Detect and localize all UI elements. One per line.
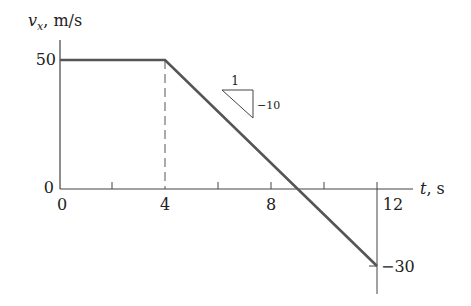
y-tick-label-50: 50 xyxy=(36,50,56,69)
y-tick-label-0: 0 xyxy=(44,178,54,197)
x-tick-label-0: 0 xyxy=(57,195,67,214)
y-tick-label-neg30: −30 xyxy=(381,257,415,276)
slope-triangle xyxy=(222,90,253,118)
slope-run-label: 1 xyxy=(231,74,239,88)
x-tick-label-12: 12 xyxy=(383,195,403,214)
chart-svg: 1 −10 50 0 −30 0 4 8 12 t, s vx, m/s xyxy=(0,0,471,306)
x-axis-title: t, s xyxy=(420,179,445,198)
x-tick-label-4: 4 xyxy=(160,195,170,214)
velocity-line xyxy=(60,60,377,266)
y-axis-title: vx, m/s xyxy=(28,11,82,33)
slope-rise-label: −10 xyxy=(257,99,280,112)
x-tick-label-8: 8 xyxy=(266,195,276,214)
velocity-time-chart: 1 −10 50 0 −30 0 4 8 12 t, s vx, m/s xyxy=(0,0,471,306)
